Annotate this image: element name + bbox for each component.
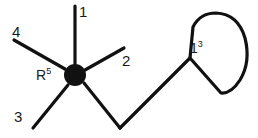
bond-label-3-text: 3 — [14, 108, 22, 125]
bond-to-2 — [85, 48, 124, 70]
chain-segment-2 — [120, 58, 190, 128]
chemical-structure-diagram: 1 2 3 4 R5 13 — [0, 0, 258, 138]
bond-to-3 — [33, 85, 68, 128]
ring-attachment-label-base: 1 — [190, 40, 198, 56]
bond-label-2-text: 2 — [122, 52, 130, 69]
chain-segment-1 — [84, 83, 120, 128]
bond-label-1-text: 1 — [79, 3, 87, 20]
bond-label-4: 4 — [12, 24, 20, 39]
central-atom-label-superscript: 5 — [46, 66, 51, 76]
bond-label-4-text: 4 — [12, 23, 20, 40]
bond-label-3: 3 — [14, 109, 22, 124]
ring-attachment-label-superscript: 3 — [198, 39, 203, 49]
bond-label-2: 2 — [122, 53, 130, 68]
bond-label-1: 1 — [79, 4, 87, 19]
central-atom-label-base: R — [36, 67, 46, 83]
central-atom-label: R5 — [36, 67, 51, 82]
central-atom-node — [64, 64, 86, 86]
bond-to-4 — [14, 40, 65, 69]
ring-attachment-label: 13 — [190, 40, 203, 55]
